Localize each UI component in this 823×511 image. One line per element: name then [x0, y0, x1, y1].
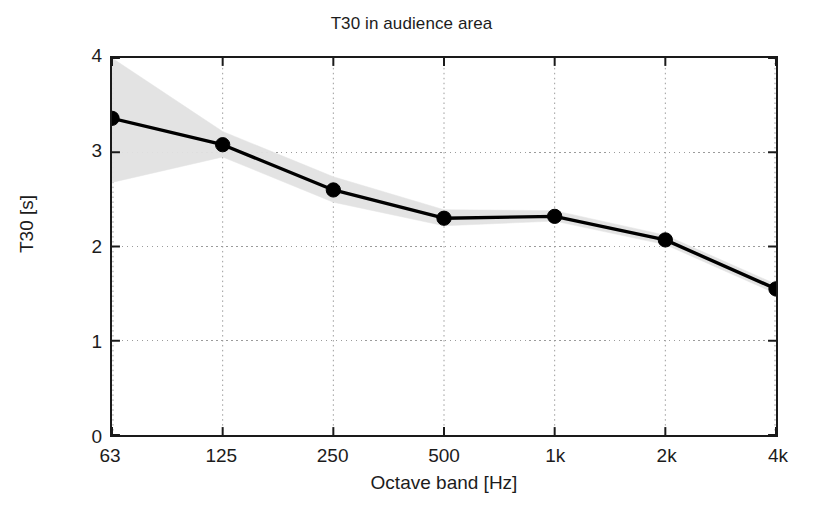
plot-svg — [112, 58, 776, 435]
x-tick-label: 63 — [99, 445, 120, 467]
x-tick-label: 4k — [768, 445, 788, 467]
y-tick-label: 2 — [68, 236, 102, 258]
chart-title: T30 in audience area — [0, 14, 823, 34]
y-tick-label: 4 — [68, 45, 102, 67]
y-axis-title: T30 [s] — [16, 164, 38, 284]
plot-area — [110, 56, 778, 437]
figure-canvas: T30 in audience area 01234 Octave band [… — [0, 0, 823, 511]
x-tick-label: 2k — [657, 445, 677, 467]
y-tick-label: 1 — [68, 331, 102, 353]
y-tick-label: 3 — [68, 140, 102, 162]
x-axis-title: Octave band [Hz] — [110, 472, 778, 494]
x-tick-label: 500 — [428, 445, 460, 467]
y-tick-label-group: 01234 — [62, 0, 102, 511]
y-tick-label: 0 — [68, 426, 102, 448]
x-tick-label: 1k — [545, 445, 565, 467]
x-tick-label: 250 — [317, 445, 349, 467]
x-tick-label: 125 — [205, 445, 237, 467]
